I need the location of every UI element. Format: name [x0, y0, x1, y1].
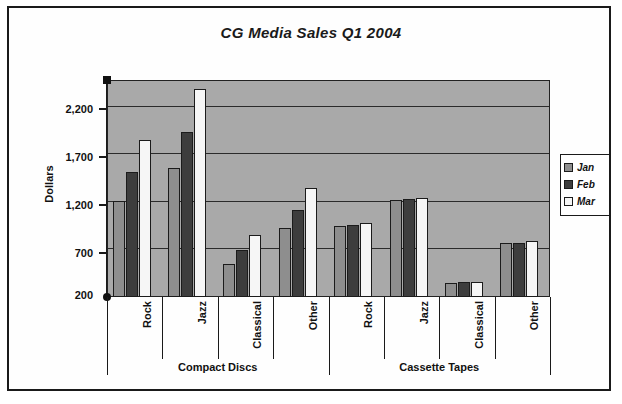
- category-label-rock: Rock: [141, 301, 153, 328]
- category-separator: [439, 297, 440, 359]
- category-label-classical: Classical: [473, 301, 485, 349]
- category-label-jazz: Jazz: [418, 301, 430, 324]
- bar-cassette-tapes-other-mar[interactable]: [526, 241, 538, 297]
- legend-swatch-icon: [564, 197, 573, 206]
- legend-item-jan[interactable]: Jan: [564, 159, 606, 176]
- bar-compact-discs-other-mar[interactable]: [305, 188, 317, 297]
- bar-compact-discs-other-jan[interactable]: [279, 228, 291, 297]
- chart-frame: CG Media Sales Q1 2004 2,200 1,700 1,200…: [7, 6, 611, 391]
- bar-compact-discs-classical-feb[interactable]: [236, 250, 248, 297]
- category-separator: [162, 297, 163, 359]
- bar-compact-discs-classical-jan[interactable]: [223, 264, 235, 297]
- bar-compact-discs-rock-feb[interactable]: [126, 172, 138, 297]
- y-tick-label-1700: 1,700: [31, 151, 93, 163]
- gridline: [108, 106, 549, 107]
- bar-compact-discs-jazz-mar[interactable]: [194, 89, 206, 297]
- bar-compact-discs-rock-mar[interactable]: [139, 140, 151, 297]
- bar-cassette-tapes-jazz-mar[interactable]: [416, 198, 428, 297]
- legend-label: Jan: [577, 162, 594, 173]
- category-separator: [495, 297, 496, 359]
- bar-compact-discs-other-feb[interactable]: [292, 210, 304, 297]
- category-separator: [384, 297, 385, 359]
- bar-cassette-tapes-other-jan[interactable]: [500, 243, 512, 297]
- bar-cassette-tapes-classical-jan[interactable]: [445, 283, 457, 297]
- y-tick-label-1200: 1,200: [31, 199, 93, 211]
- legend-label: Feb: [577, 179, 595, 190]
- bar-cassette-tapes-jazz-feb[interactable]: [403, 199, 415, 297]
- y-tick-label-700: 700: [31, 247, 93, 259]
- category-separator: [273, 297, 274, 359]
- bar-compact-discs-classical-mar[interactable]: [249, 235, 261, 297]
- legend-item-mar[interactable]: Mar: [564, 193, 606, 210]
- category-label-classical: Classical: [251, 301, 263, 349]
- bar-compact-discs-jazz-jan[interactable]: [168, 168, 180, 297]
- legend-swatch-icon: [564, 163, 573, 172]
- chart-legend[interactable]: Jan Feb Mar: [560, 154, 610, 216]
- bar-cassette-tapes-rock-mar[interactable]: [360, 223, 372, 297]
- y-tick-label-200: 200: [31, 289, 93, 301]
- legend-label: Mar: [577, 196, 595, 207]
- category-axis: RockJazzClassicalOtherRockJazzClassicalO…: [107, 297, 550, 375]
- category-label-jazz: Jazz: [196, 301, 208, 324]
- y-tick-label-2200: 2,200: [31, 103, 93, 115]
- bar-cassette-tapes-classical-feb[interactable]: [458, 282, 470, 297]
- bar-cassette-tapes-rock-feb[interactable]: [347, 225, 359, 297]
- category-separator: [218, 297, 219, 359]
- group-label-compact-discs: Compact Discs: [107, 361, 329, 373]
- category-label-other: Other: [307, 301, 319, 330]
- legend-swatch-icon: [564, 180, 573, 189]
- bar-cassette-tapes-classical-mar[interactable]: [471, 282, 483, 297]
- y-axis-labels: 2,200 1,700 1,200 700 200 Dollars: [31, 8, 93, 404]
- plot-area: [107, 80, 550, 297]
- bar-cassette-tapes-rock-jan[interactable]: [334, 226, 346, 297]
- bar-compact-discs-rock-jan[interactable]: [113, 201, 125, 297]
- y-axis-title: Dollars: [43, 165, 55, 202]
- group-separator: [550, 297, 551, 375]
- legend-item-feb[interactable]: Feb: [564, 176, 606, 193]
- bar-compact-discs-jazz-feb[interactable]: [181, 132, 193, 297]
- bar-cassette-tapes-jazz-jan[interactable]: [390, 200, 402, 297]
- bar-cassette-tapes-other-feb[interactable]: [513, 243, 525, 297]
- group-label-cassette-tapes: Cassette Tapes: [329, 361, 551, 373]
- category-label-other: Other: [528, 301, 540, 330]
- chart-title: CG Media Sales Q1 2004: [9, 24, 613, 41]
- plot-corner-handle[interactable]: [103, 76, 111, 84]
- category-label-rock: Rock: [362, 301, 374, 328]
- gridline: [108, 153, 549, 154]
